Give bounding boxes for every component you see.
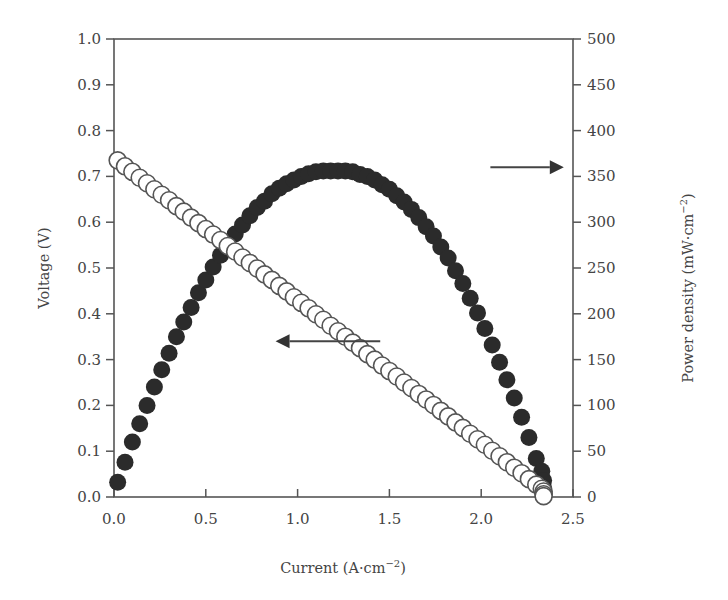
voltage-data-point xyxy=(535,488,552,505)
power-data-point xyxy=(153,361,170,378)
x-tick-label: 2.5 xyxy=(561,510,585,528)
x-axis-title: Current (A·cm−2) xyxy=(280,558,406,576)
power-data-point xyxy=(117,454,134,471)
power-data-point xyxy=(131,415,148,432)
y2-tick-label: 100 xyxy=(587,396,616,414)
y2-axis-ticks: 050100150200250300350400450500 xyxy=(573,30,616,506)
y-tick-label: 0.0 xyxy=(77,488,101,506)
y2-tick-label: 0 xyxy=(587,488,597,506)
left-arrow-icon xyxy=(276,334,290,348)
y2-tick-label: 50 xyxy=(587,442,606,460)
x-tick-label: 2.0 xyxy=(469,510,493,528)
y2-tick-label: 500 xyxy=(587,30,616,48)
y2-axis-title: Power density (mW·cm−2) xyxy=(678,193,696,383)
y-tick-label: 0.3 xyxy=(77,351,101,369)
power-data-point xyxy=(109,474,126,491)
power-data-point xyxy=(498,371,515,388)
x-tick-label: 1.5 xyxy=(377,510,401,528)
fuel-cell-polarization-chart: 0.00.51.01.52.02.5 0.00.10.20.30.40.50.6… xyxy=(0,0,728,600)
power-data-point xyxy=(454,275,471,292)
y-tick-label: 0.7 xyxy=(77,167,101,185)
power-data-point xyxy=(462,290,479,307)
y2-tick-label: 350 xyxy=(587,167,616,185)
plot-frame xyxy=(114,39,573,497)
power-data-point xyxy=(469,304,486,321)
power-data-point xyxy=(183,299,200,316)
power-data-point xyxy=(476,320,493,337)
y-tick-label: 0.6 xyxy=(77,213,101,231)
x-axis-ticks: 0.00.51.01.52.02.5 xyxy=(102,489,585,528)
y2-tick-label: 450 xyxy=(587,76,616,94)
y2-tick-label: 250 xyxy=(587,259,616,277)
x-tick-label: 0.0 xyxy=(102,510,126,528)
power-data-point xyxy=(484,336,501,353)
x-tick-label: 0.5 xyxy=(194,510,218,528)
y2-tick-label: 200 xyxy=(587,305,616,323)
y2-tick-label: 300 xyxy=(587,213,616,231)
y2-tick-label: 400 xyxy=(587,122,616,140)
power-data-point xyxy=(520,429,537,446)
y-tick-label: 0.4 xyxy=(77,305,101,323)
power-data-point xyxy=(146,379,163,396)
power-data-point xyxy=(506,390,523,407)
y-tick-label: 1.0 xyxy=(77,30,101,48)
y-tick-label: 0.5 xyxy=(77,259,101,277)
y-tick-label: 0.1 xyxy=(77,442,101,460)
y-axis-ticks: 0.00.10.20.30.40.50.60.70.80.91.0 xyxy=(77,30,114,506)
power-data-point xyxy=(161,345,178,362)
y-axis-title: Voltage (V) xyxy=(36,227,52,309)
x-tick-label: 1.0 xyxy=(286,510,310,528)
power-data-point xyxy=(168,328,185,345)
power-data-point xyxy=(139,397,156,414)
y-tick-label: 0.8 xyxy=(77,122,101,140)
power-data-point xyxy=(513,409,530,426)
power-data-point xyxy=(124,434,141,451)
right-arrow-icon xyxy=(550,160,564,174)
y-tick-label: 0.2 xyxy=(77,396,101,414)
y2-tick-label: 150 xyxy=(587,351,616,369)
y-tick-label: 0.9 xyxy=(77,76,101,94)
power-data-point xyxy=(491,354,508,371)
power-data-point xyxy=(175,314,192,331)
